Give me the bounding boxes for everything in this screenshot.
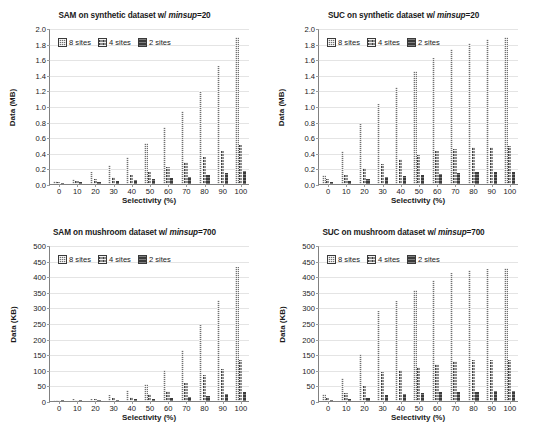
bar: [199, 325, 202, 401]
x-tick-label: 20: [91, 187, 99, 196]
x-tick-label: 60: [433, 404, 441, 413]
x-tick-label: 40: [128, 187, 136, 196]
bar: [199, 91, 202, 184]
legend-item[interactable]: 2 sites: [407, 38, 440, 47]
x-tick-label: 80: [469, 187, 477, 196]
y-tick-label: 400: [33, 273, 46, 282]
x-tick-label: 40: [397, 187, 405, 196]
y-axis-label: Data (MB): [6, 29, 20, 185]
legend-item[interactable]: 8 sites: [327, 38, 360, 47]
bar: [450, 49, 453, 184]
legend-item-label: 8 sites: [338, 38, 360, 47]
y-tick-label: 1.4: [304, 71, 315, 80]
x-tick-label: 90: [487, 187, 495, 196]
bar: [435, 364, 438, 401]
bar: [72, 399, 75, 401]
bar: [144, 384, 147, 401]
bar: [385, 395, 388, 401]
chart-title-italic-term: minsup: [437, 11, 466, 20]
legend-item[interactable]: 4 sites: [367, 255, 400, 264]
bar: [225, 394, 228, 401]
bar: [322, 175, 325, 184]
x-tick-label: 90: [218, 187, 226, 196]
chart-title-suffix: =700: [467, 228, 485, 237]
y-tick-label: 200: [33, 335, 46, 344]
chart-title-prefix: SAM on synthetic dataset w/: [58, 11, 168, 20]
bar: [206, 175, 209, 184]
legend-item-label: 4 sites: [378, 38, 400, 47]
bar: [363, 168, 366, 184]
bar: [366, 398, 369, 401]
x-tick-label: 100: [504, 187, 517, 196]
legend-item[interactable]: 4 sites: [98, 38, 131, 47]
x-tick-label: 0: [57, 187, 61, 196]
chart-title: SUC on synthetic dataset w/ minsup=20: [269, 11, 538, 20]
y-tick-label: 100: [33, 366, 46, 375]
chart-title-suffix: =20: [466, 11, 480, 20]
legend-item[interactable]: 8 sites: [327, 255, 360, 264]
bar: [116, 400, 119, 401]
legend-swatch-icon: [327, 38, 336, 47]
y-tick-label: 0.0: [35, 181, 46, 190]
bar: [385, 177, 388, 184]
bar: [79, 400, 82, 401]
bar: [413, 71, 416, 184]
bar: [203, 157, 206, 184]
bar-group-container: [319, 29, 518, 184]
bar: [239, 360, 242, 401]
bar: [130, 175, 133, 184]
y-tick-label: 350: [33, 288, 46, 297]
bar: [413, 290, 416, 401]
bar: [359, 124, 362, 184]
y-tick-label: 450: [33, 257, 46, 266]
bar: [243, 171, 246, 184]
chart-legend: 8 sites4 sites2 sites: [327, 38, 440, 47]
legend-item[interactable]: 4 sites: [98, 255, 131, 264]
y-tick-label: 350: [302, 288, 315, 297]
bar: [97, 400, 100, 401]
x-tick-label: 40: [397, 404, 405, 413]
bar: [490, 360, 493, 401]
bar: [486, 269, 489, 401]
bar: [152, 399, 155, 401]
bar: [134, 399, 137, 401]
bar: [395, 301, 398, 401]
y-tick-label: 0.0: [304, 181, 315, 190]
legend-item[interactable]: 2 sites: [407, 255, 440, 264]
x-tick-label: 100: [235, 404, 248, 413]
y-tick-label: 1.0: [35, 103, 46, 112]
y-tick-label: 450: [302, 257, 315, 266]
x-tick-label: 50: [415, 404, 423, 413]
chart-legend: 8 sites4 sites2 sites: [58, 38, 171, 47]
y-tick-label: 0.6: [304, 134, 315, 143]
legend-item[interactable]: 2 sites: [138, 255, 171, 264]
legend-item[interactable]: 2 sites: [138, 38, 171, 47]
bar: [399, 370, 402, 401]
bar: [330, 182, 333, 184]
x-tick-label: 30: [378, 187, 386, 196]
bar: [181, 111, 184, 184]
bar: [163, 127, 166, 184]
y-tick-label: 0.4: [35, 149, 46, 158]
bar: [170, 178, 173, 184]
x-axis-label: Selectivity (%): [318, 413, 518, 422]
y-axis-label-text: Data (KB): [9, 306, 18, 342]
legend-item[interactable]: 4 sites: [367, 38, 400, 47]
legend-item[interactable]: 8 sites: [58, 255, 91, 264]
bar: [108, 395, 111, 401]
chart-legend: 8 sites4 sites2 sites: [327, 255, 440, 264]
bar: [417, 367, 420, 401]
legend-item-label: 4 sites: [109, 38, 131, 47]
y-tick-label: 100: [302, 366, 315, 375]
bar: [344, 393, 347, 401]
legend-item-label: 4 sites: [109, 255, 131, 264]
x-tick-label: 50: [146, 404, 154, 413]
legend-item[interactable]: 8 sites: [58, 38, 91, 47]
y-axis-label: Data (KB): [6, 246, 20, 402]
chart-title-suffix: =700: [198, 228, 216, 237]
bar: [468, 43, 471, 184]
chart-legend: 8 sites4 sites2 sites: [58, 255, 171, 264]
y-tick-label: 1.6: [35, 56, 46, 65]
y-tick-label: 400: [302, 273, 315, 282]
chart-panel-top-left: SAM on synthetic dataset w/ minsup=20Dat…: [0, 0, 269, 217]
